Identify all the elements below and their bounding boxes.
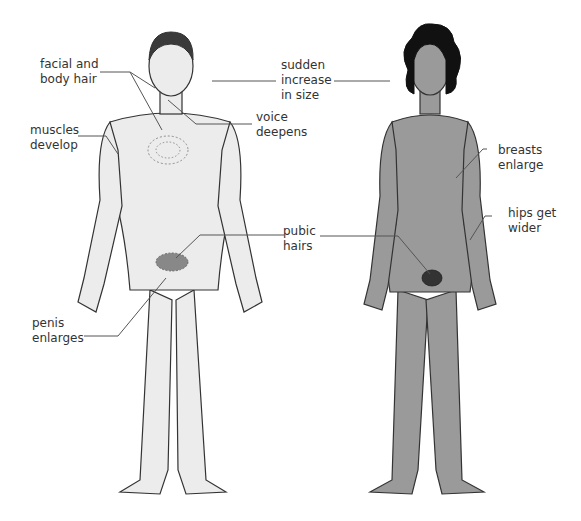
label-voice-deepens: voice deepens	[256, 110, 307, 140]
female-figure	[364, 41, 496, 494]
label-muscles-develop: muscles develop	[30, 123, 79, 153]
female-pubic-hair	[422, 270, 442, 286]
label-sudden-increase: sudden increase in size	[281, 58, 332, 103]
male-pubic-hair	[156, 253, 188, 271]
label-penis-enlarges: penis enlarges	[32, 316, 84, 346]
label-pubic-hairs: pubic hairs	[283, 224, 316, 254]
puberty-diagram: facial and body hair sudden increase in …	[0, 0, 581, 521]
label-facial-body-hair: facial and body hair	[40, 57, 99, 87]
label-breasts-enlarge: breasts enlarge	[498, 143, 543, 173]
label-hips-wider: hips get wider	[508, 206, 556, 236]
